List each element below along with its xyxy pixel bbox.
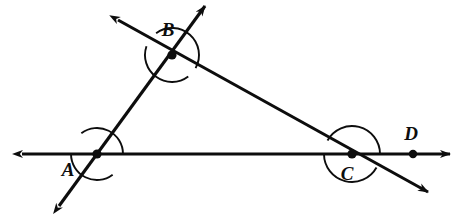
vertex-label-D: D (403, 123, 418, 144)
geometry-canvas: A B C D (0, 0, 469, 215)
vertex-label-A: A (61, 159, 75, 180)
vertex-label-layer: A B C D (61, 19, 418, 184)
line-AB-transversal (59, 6, 205, 206)
angle-arc-A-lower (81, 128, 123, 154)
angle-arc-A-upper (71, 154, 113, 180)
vertex-label-B: B (161, 19, 175, 40)
angle-arc-layer (71, 28, 380, 182)
line-layer (22, 6, 450, 206)
vertex-dot-D (409, 150, 417, 158)
vertex-dot-B (167, 50, 176, 59)
line-BC-transversal (118, 20, 428, 192)
vertex-dot-A (92, 149, 101, 158)
vertex-label-C: C (341, 163, 354, 184)
angle-arc-B-left (145, 46, 188, 82)
geometry-diagram: A B C D (0, 0, 469, 215)
vertex-dot-C (347, 149, 356, 158)
vertex-dot-layer (92, 50, 417, 158)
